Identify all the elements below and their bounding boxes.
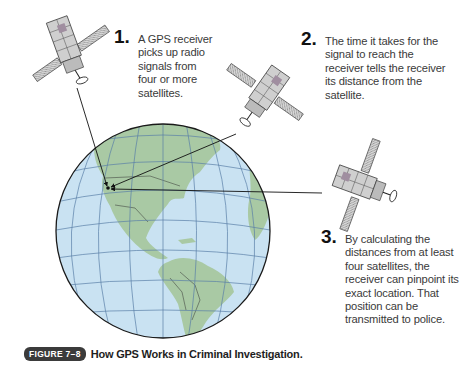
figure-caption: FIGURE 7–8 How GPS Works in Criminal Inv… [24, 347, 303, 361]
receiver-point [106, 186, 110, 190]
step-3: 3. By calculating the distances from at … [321, 233, 461, 327]
step-1-text: A GPS receiver picks up radio signals fr… [138, 33, 214, 100]
figure-label-badge: FIGURE 7–8 [24, 347, 86, 361]
step-1: 1. A GPS receiver picks up radio signals… [114, 33, 214, 100]
satellite-2-icon [207, 45, 316, 149]
globe [50, 122, 277, 344]
step-2: 2. The time it takes for the signal to r… [301, 35, 451, 102]
figure-title: How GPS Works in Criminal Investigation. [91, 348, 303, 360]
step-2-number: 2. [301, 32, 317, 45]
satellite-1-icon [18, 4, 123, 99]
step-2-text: The time it takes for the signal to reac… [325, 35, 451, 102]
step-1-number: 1. [114, 30, 130, 43]
step-3-text: By calculating the distances from at lea… [345, 233, 461, 327]
step-3-number: 3. [321, 230, 337, 243]
